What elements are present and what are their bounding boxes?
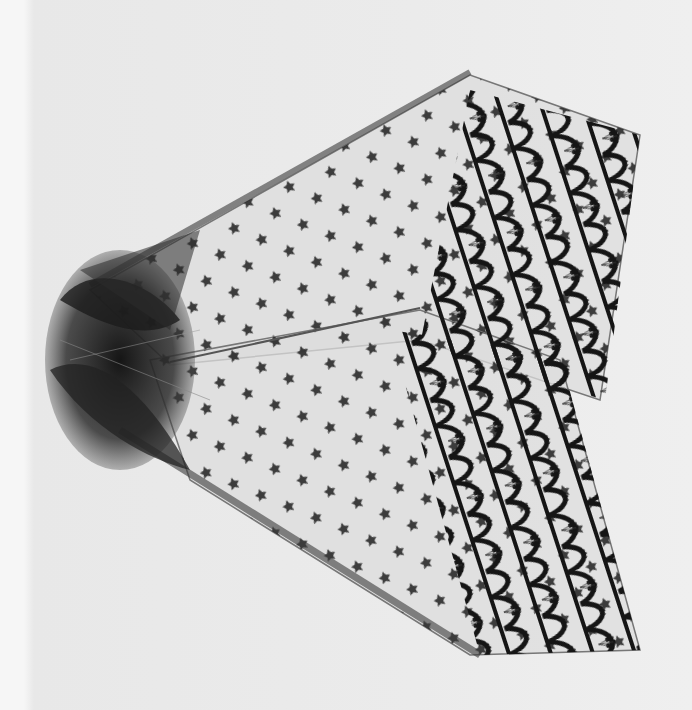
lace-veil [0,0,692,710]
photograph [0,0,692,710]
